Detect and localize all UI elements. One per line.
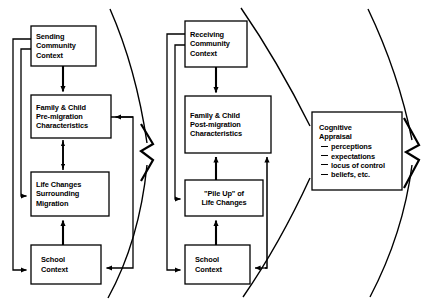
- text-line: Appraisal: [319, 132, 402, 141]
- text-line: Community: [190, 39, 247, 48]
- bullet-item: perceptions: [319, 142, 402, 151]
- text-line: Family & Child: [36, 103, 111, 112]
- label-family-child-pre-migration: Family & Child Pre-migration Characteris…: [31, 95, 111, 138]
- divider-arrow-right: [404, 118, 419, 188]
- text-line: Context: [41, 265, 101, 274]
- text-line: Context: [195, 265, 250, 274]
- text-line: "Pile Up" of: [204, 189, 244, 198]
- dash-icon: [321, 164, 328, 165]
- text-line: Life Changes: [36, 180, 109, 189]
- text-line: Context: [190, 49, 247, 58]
- rail-pre-migration-school-loop: [107, 117, 134, 268]
- dash-icon: [321, 174, 328, 175]
- text-line: Context: [36, 51, 96, 60]
- text-line: Post-migration: [190, 120, 271, 129]
- rail-receiving-school-to-family-post: [265, 157, 267, 268]
- label-school-context-sending: School Context: [31, 245, 101, 284]
- label-pile-up-of-life-changes: "Pile Up" of Life Changes: [185, 180, 263, 216]
- text-line: School: [41, 255, 101, 264]
- text-line: Family & Child: [190, 111, 271, 120]
- text-line: Migration: [36, 199, 109, 208]
- text-line: Life Changes: [201, 198, 246, 207]
- label-school-context-receiving: School Context: [185, 245, 250, 284]
- label-receiving-community-context: Receiving Community Context: [185, 21, 247, 67]
- text-line: Cognitive: [319, 123, 402, 132]
- bullet-label: beliefs, etc.: [331, 170, 370, 179]
- diagram-canvas: Sending Community Context Family & Child…: [0, 0, 432, 307]
- cognitive-appraisal-bullets: perceptions expectations locus of contro…: [319, 142, 402, 179]
- divider-arrow-left: [141, 124, 153, 181]
- text-line: Sending: [36, 32, 96, 41]
- rail-receiving-inner: [175, 45, 185, 199]
- text-line: Community: [36, 41, 96, 50]
- text-line: School: [195, 255, 250, 264]
- divider-curve-left-a: [110, 9, 147, 143]
- label-life-changes-surrounding-migration: Life Changes Surrounding Migration: [31, 172, 109, 216]
- dash-icon: [321, 146, 328, 147]
- rail-sending-inner: [21, 49, 31, 196]
- bullet-item: beliefs, etc.: [319, 170, 402, 179]
- label-cognitive-appraisal: Cognitive Appraisal perceptions expectat…: [312, 112, 402, 190]
- bullet-label: expectations: [331, 152, 375, 161]
- text-line: Characteristics: [190, 129, 271, 138]
- text-line: Pre-migration: [36, 112, 111, 121]
- rail-sending-outer: [13, 39, 31, 270]
- rail-receiving-outer: [167, 34, 185, 270]
- bullet-label: locus of control: [331, 161, 385, 170]
- bullet-item: locus of control: [319, 161, 402, 170]
- label-family-child-post-migration: Family & Child Post-migration Characteri…: [185, 96, 271, 153]
- dash-icon: [321, 155, 328, 156]
- bullet-label: perceptions: [331, 142, 372, 151]
- text-line: Surrounding: [36, 189, 109, 198]
- text-line: Characteristics: [36, 121, 111, 130]
- divider-curve-left-b: [108, 165, 147, 298]
- text-line: Receiving: [190, 30, 247, 39]
- label-sending-community-context: Sending Community Context: [31, 26, 96, 66]
- bullet-item: expectations: [319, 152, 402, 161]
